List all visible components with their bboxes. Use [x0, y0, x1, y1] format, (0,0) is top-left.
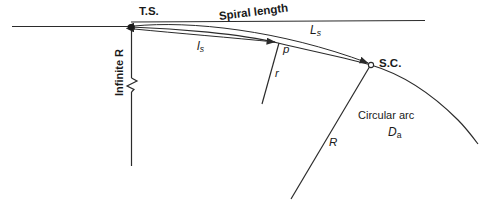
diagram-canvas [0, 0, 480, 208]
lowercase-ls-subscript: s [200, 44, 204, 54]
spiral-curve-diagram: T.S. S.C. Spiral length ls Ls p r R Circ… [0, 0, 480, 208]
radius-R-label: R [329, 137, 337, 149]
radius-R-line [291, 66, 370, 199]
sc-point-label: S.C. [379, 58, 401, 70]
dimension-arrow-l-s [134, 29, 275, 42]
ts-point-label: T.S. [139, 6, 159, 18]
uppercase-Ls-base: L [310, 23, 317, 37]
sc-point-marker [368, 62, 373, 67]
infinite-radius-label: Infinite R [114, 49, 125, 96]
uppercase-Ls-label: Ls [310, 24, 321, 38]
ts-point-marker [128, 24, 134, 30]
line-break-symbol [127, 78, 137, 92]
lowercase-ls-label: ls [197, 40, 204, 54]
point-p-label: p [283, 44, 289, 56]
Da-base: D [388, 125, 397, 139]
Da-subscript: a [397, 130, 402, 140]
forward-tangent-line [131, 21, 425, 23]
dimension-arrow-L-s [134, 25, 368, 63]
circular-arc-label: Circular arc [358, 110, 414, 121]
radius-r-label: r [275, 68, 279, 80]
uppercase-Ls-subscript: s [317, 28, 321, 38]
spiral-curve [131, 27, 371, 65]
degree-of-curve-label: Da [388, 126, 401, 140]
